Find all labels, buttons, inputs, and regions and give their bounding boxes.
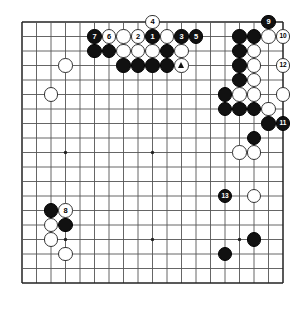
stone-black-c5-r2[interactable] — [87, 44, 101, 58]
stone-black-c16-r15[interactable] — [247, 232, 261, 246]
stone-white-c2-r5[interactable] — [44, 87, 58, 101]
stone-white-c17-r1[interactable] — [261, 29, 275, 43]
stone-white-c3-r13[interactable]: 8 — [58, 203, 72, 217]
move-number-label: 9 — [266, 18, 270, 26]
stone-white-c3-r16[interactable] — [58, 247, 72, 261]
stone-black-c15-r2[interactable] — [232, 44, 246, 58]
stone-white-c18-r3[interactable]: 12 — [276, 58, 290, 72]
stone-black-c15-r6[interactable] — [232, 102, 246, 116]
stone-black-c14-r5[interactable] — [218, 87, 232, 101]
move-number-label: 12 — [279, 62, 286, 69]
stone-black-c7-r3[interactable] — [116, 58, 130, 72]
stone-white-c15-r5[interactable] — [232, 87, 246, 101]
stone-white-c7-r2[interactable] — [116, 44, 130, 58]
stone-black-c17-r0[interactable]: 9 — [261, 15, 275, 29]
stone-white-c3-r3[interactable] — [58, 58, 72, 72]
stone-black-c15-r3[interactable] — [232, 58, 246, 72]
move-number-label: 7 — [92, 33, 96, 41]
stone-black-c2-r13[interactable] — [44, 203, 58, 217]
stone-white-c16-r5[interactable] — [247, 87, 261, 101]
stone-black-c9-r3[interactable] — [145, 58, 159, 72]
move-number-label: 5 — [194, 33, 198, 41]
stone-black-c11-r1[interactable]: 3 — [174, 29, 188, 43]
move-number-label: 1 — [150, 33, 154, 41]
move-number-label: 3 — [179, 33, 183, 41]
stone-white-c9-r2[interactable] — [145, 44, 159, 58]
stone-white-c8-r1[interactable]: 2 — [131, 29, 145, 43]
stone-white-c18-r1[interactable]: 10 — [276, 29, 290, 43]
stone-white-c16-r9[interactable] — [247, 145, 261, 159]
stone-black-c16-r1[interactable] — [247, 29, 261, 43]
stone-white-c15-r9[interactable] — [232, 145, 246, 159]
stone-black-c5-r1[interactable]: 7 — [87, 29, 101, 43]
move-number-label: 10 — [279, 33, 286, 40]
stone-white-c6-r1[interactable]: 6 — [102, 29, 116, 43]
stone-black-c10-r3[interactable] — [160, 58, 174, 72]
stone-white-c9-r0[interactable]: 4 — [145, 15, 159, 29]
stone-white-c7-r1[interactable] — [116, 29, 130, 43]
stone-black-c15-r4[interactable] — [232, 73, 246, 87]
go-board[interactable]: 76213549101211138 — [0, 0, 303, 312]
move-number-label: 8 — [63, 207, 67, 215]
stone-black-c9-r1[interactable]: 1 — [145, 29, 159, 43]
stone-black-c18-r7[interactable]: 11 — [276, 116, 290, 130]
move-number-label: 2 — [136, 33, 140, 41]
stone-white-c11-r2[interactable] — [174, 44, 188, 58]
stone-black-c17-r7[interactable] — [261, 116, 275, 130]
stone-black-c15-r1[interactable] — [232, 29, 246, 43]
stone-white-c17-r6[interactable] — [261, 102, 275, 116]
move-number-label: 13 — [221, 193, 228, 200]
stone-white-c18-r5[interactable] — [276, 87, 290, 101]
move-number-label: 6 — [107, 33, 111, 41]
triangle-marker-icon — [178, 62, 184, 68]
go-diagram-root: 76213549101211138 — [0, 0, 303, 312]
stone-white-c2-r15[interactable] — [44, 232, 58, 246]
stone-white-c16-r3[interactable] — [247, 58, 261, 72]
stone-black-c12-r1[interactable]: 5 — [189, 29, 203, 43]
stone-black-c3-r14[interactable] — [58, 218, 72, 232]
move-number-label: 11 — [280, 120, 287, 127]
stone-black-c8-r3[interactable] — [131, 58, 145, 72]
stone-white-c10-r1[interactable] — [160, 29, 174, 43]
move-number-label: 4 — [150, 18, 154, 26]
